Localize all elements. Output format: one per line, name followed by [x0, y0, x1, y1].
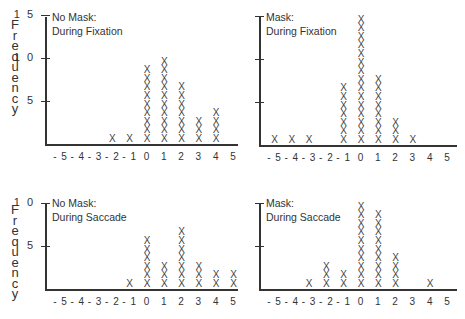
data-mark-x: X [142, 135, 152, 143]
data-mark-x: X [142, 118, 152, 126]
y-tick-label: 1 0 [13, 51, 35, 63]
data-mark-x: X [356, 246, 366, 254]
y-tick [41, 58, 50, 60]
data-mark-x: X [356, 102, 366, 110]
y-axis-line [45, 17, 47, 145]
x-tick-label: - 2 [318, 296, 334, 307]
data-mark-x: X [339, 280, 349, 288]
y-tick [41, 15, 50, 17]
data-mark-x: X [177, 271, 187, 279]
x-tick-label: 5 [440, 152, 456, 163]
x-axis-line [259, 145, 457, 147]
x-tick-label: 1 [370, 296, 386, 307]
data-mark-x: X [159, 263, 169, 271]
x-tick-label: - 5 [53, 296, 69, 307]
data-mark-x: X [373, 263, 383, 271]
x-tick-label: - 3 [301, 296, 317, 307]
data-mark-x: X [177, 101, 187, 109]
x-tick-label: 2 [388, 152, 404, 163]
data-mark-x: X [356, 271, 366, 279]
x-tick-label: - 5 [53, 151, 69, 162]
x-tick-label: - 1 [122, 296, 138, 307]
data-mark-x: X [373, 127, 383, 135]
data-mark-x: X [159, 58, 169, 66]
data-mark-x: X [177, 135, 187, 143]
x-tick-label: - 3 [301, 152, 317, 163]
data-mark-x: X [159, 126, 169, 134]
data-mark-x: X [356, 263, 366, 271]
data-mark-x: X [304, 280, 314, 288]
y-tick [255, 102, 264, 104]
x-tick-label: - 3 [87, 151, 103, 162]
data-mark-x: X [408, 136, 418, 144]
data-mark-x: X [339, 271, 349, 279]
data-mark-x: X [373, 254, 383, 262]
data-mark-x: X [159, 66, 169, 74]
data-mark-x: X [373, 119, 383, 127]
data-mark-x: X [159, 271, 169, 279]
data-mark-x: X [287, 136, 297, 144]
data-mark-x: X [211, 109, 221, 117]
data-mark-x: X [356, 220, 366, 228]
data-mark-x: X [356, 93, 366, 101]
data-mark-x: X [142, 280, 152, 288]
x-tick-label: 0 [353, 296, 369, 307]
data-mark-x: X [142, 126, 152, 134]
data-mark-x: X [356, 67, 366, 75]
data-mark-x: X [391, 136, 401, 144]
x-tick-label: 3 [405, 152, 421, 163]
panel-title-line2: During Saccade [52, 210, 127, 224]
x-tick-label: 1 [370, 152, 386, 163]
data-mark-x: X [321, 280, 331, 288]
data-mark-x: X [159, 101, 169, 109]
data-mark-x: X [177, 126, 187, 134]
x-tick-label: - 4 [70, 296, 86, 307]
x-axis-line [45, 289, 238, 291]
data-mark-x: X [142, 101, 152, 109]
data-mark-x: X [321, 263, 331, 271]
data-mark-x: X [177, 83, 187, 91]
data-mark-x: X [373, 84, 383, 92]
data-mark-x: X [177, 280, 187, 288]
data-mark-x: X [356, 237, 366, 245]
x-tick-label: 4 [422, 296, 438, 307]
y-tick [255, 246, 264, 248]
data-mark-x: X [391, 127, 401, 135]
data-mark-x: X [194, 126, 204, 134]
data-mark-x: X [142, 83, 152, 91]
data-mark-x: X [177, 254, 187, 262]
data-mark-x: X [125, 280, 135, 288]
x-tick-label: - 5 [267, 152, 283, 163]
data-mark-x: X [125, 135, 135, 143]
data-mark-x: X [339, 127, 349, 135]
data-mark-x: X [356, 50, 366, 58]
y-axis-label: Frequency [8, 205, 22, 300]
y-tick-label: 5 [13, 94, 35, 106]
x-tick-label: - 4 [284, 296, 300, 307]
data-mark-x: X [194, 271, 204, 279]
data-mark-x: X [211, 126, 221, 134]
data-mark-x: X [356, 41, 366, 49]
data-mark-x: X [356, 280, 366, 288]
data-mark-x: X [373, 211, 383, 219]
data-mark-x: X [373, 246, 383, 254]
data-mark-x: X [194, 280, 204, 288]
data-mark-x: X [356, 110, 366, 118]
x-tick-label: - 4 [70, 151, 86, 162]
data-mark-x: X [159, 135, 169, 143]
data-mark-x: X [356, 136, 366, 144]
data-mark-x: X [159, 75, 169, 83]
x-tick-label: 0 [139, 151, 155, 162]
data-mark-x: X [356, 203, 366, 211]
x-axis-line [259, 289, 457, 291]
x-tick-label: 4 [208, 296, 224, 307]
x-tick-label: 0 [139, 296, 155, 307]
data-mark-x: X [356, 254, 366, 262]
data-mark-x: X [356, 127, 366, 135]
data-mark-x: X [391, 263, 401, 271]
y-tick [255, 16, 264, 18]
data-mark-x: X [373, 237, 383, 245]
data-mark-x: X [194, 118, 204, 126]
y-tick [255, 59, 264, 61]
data-mark-x: X [425, 280, 435, 288]
